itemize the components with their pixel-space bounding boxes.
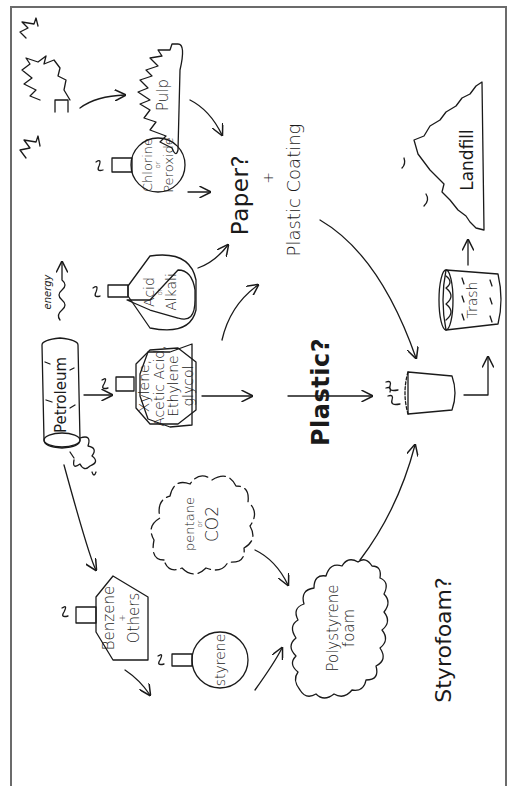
benzene-label: Benzene + Others	[102, 586, 143, 650]
acid-text: Acid	[142, 273, 157, 311]
styrene-label: styrene	[213, 634, 228, 687]
styrofoam-label: Styrofoam?	[432, 577, 455, 702]
chlorine-peroxide-label: Chlorine or Peroxide	[141, 137, 176, 193]
paper-label: Paper?	[228, 155, 252, 235]
petroleum-label: Petroleum	[54, 357, 70, 433]
trash-label: Trash	[465, 282, 480, 319]
pulp-label: Pulp	[156, 79, 172, 111]
xylene-text: Xylene,	[137, 345, 152, 426]
ethylene-text: Ethylene	[166, 345, 181, 426]
polystyrene-label: Polystyrene foam	[326, 584, 358, 671]
plastic-label: Plastic?	[309, 338, 334, 446]
styrene-flask-icon	[158, 632, 248, 688]
energy-label: energy	[43, 274, 54, 309]
pentane-co2-label: pentane or CO2	[183, 497, 222, 551]
cup-icon	[386, 372, 455, 414]
pentane-text: pentane	[183, 497, 197, 551]
co2-text: CO2	[204, 497, 222, 551]
chlorine-text: Chlorine	[141, 137, 155, 193]
peroxide-text: Peroxide	[162, 137, 176, 193]
benzene-text: Benzene	[102, 586, 118, 650]
xylene-label: Xylene, Acetic Acid, Ethylene glycol	[137, 345, 196, 426]
glycol-text: glycol	[181, 345, 196, 426]
acid-alkali-label: Acid or Alkali	[142, 273, 179, 311]
plastic-coating-label: Plastic Coating	[285, 124, 304, 257]
alkali-text: Alkali	[164, 273, 179, 311]
tree-icon	[20, 18, 70, 158]
energy-arrow	[58, 262, 65, 320]
others-text: Others	[127, 586, 143, 650]
acetic-acid-text: Acetic Acid,	[151, 345, 166, 426]
landfill-label: Landfill	[459, 129, 477, 191]
foam-text: foam	[342, 584, 358, 671]
plus-label: +	[261, 172, 276, 184]
